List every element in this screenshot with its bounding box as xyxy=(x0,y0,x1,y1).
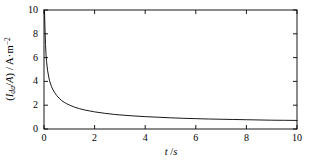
series-line-current-density-decay xyxy=(44,10,297,120)
plot-frame xyxy=(44,10,297,129)
axis-ticks xyxy=(44,10,297,129)
plot-area xyxy=(0,0,310,166)
chart-figure: (Ida/A) / A·m−2 t /s 10 8 6 4 2 0 0 2 4 … xyxy=(0,0,310,166)
plot-frame-rect xyxy=(44,10,297,129)
